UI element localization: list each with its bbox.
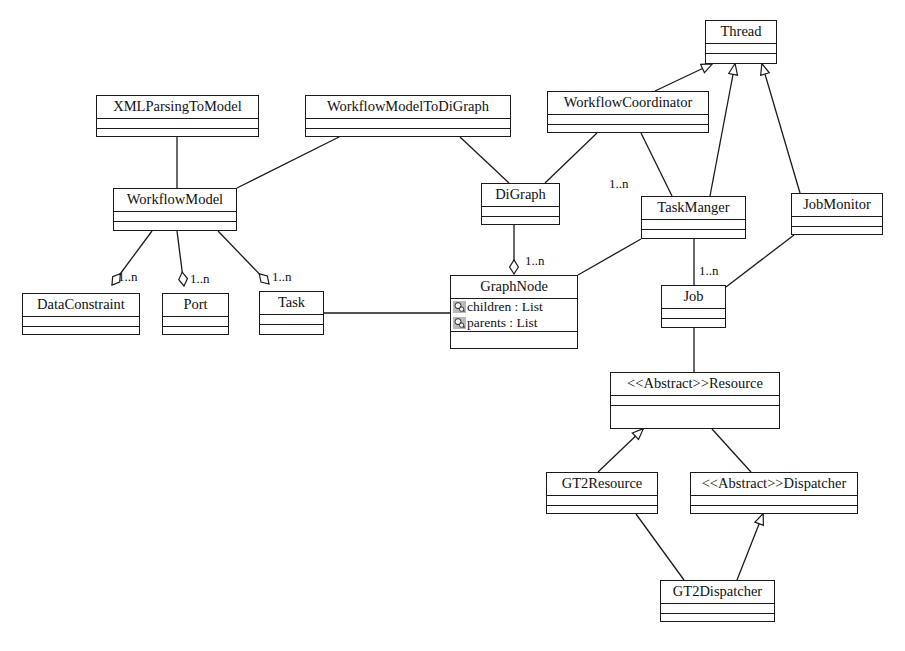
uml-operations-dataconstraint [23, 327, 139, 338]
uml-class-gt2resource[interactable]: GT2Resource [546, 472, 658, 514]
uml-class-name-gt2dispatcher: GT2Dispatcher [661, 581, 774, 604]
uml-attribute-text: children : List [467, 300, 543, 314]
uml-attributes-thread [706, 44, 776, 54]
connector-coordinator-thread [655, 64, 712, 91]
mult-taskmanger-job: 1..n [699, 264, 719, 277]
uml-attributes-resource [611, 396, 779, 406]
uml-attribute-row: children : List [451, 299, 577, 315]
uml-attributes-job [662, 309, 725, 319]
uml-class-taskmanger[interactable]: TaskManger [641, 196, 746, 239]
uml-class-dataconstraint[interactable]: DataConstraint [22, 293, 140, 335]
uml-attributes-xmlparsingtomodel [97, 119, 258, 129]
uml-class-workflowmodel[interactable]: WorkflowModel [113, 188, 237, 231]
mult-workflowmodel-task: 1..n [272, 270, 292, 283]
uml-attributes-dataconstraint [23, 317, 139, 327]
uml-operations-workflowcoordinator [548, 125, 708, 136]
uml-attribute-row: parents : List [451, 315, 577, 331]
uml-class-name-xmlparsingtomodel: XMLParsingToModel [97, 96, 258, 119]
uml-class-name-taskmanger: TaskManger [642, 197, 745, 220]
uml-attribute-text: parents : List [467, 316, 538, 330]
uml-class-dispatcher[interactable]: <<Abstract>>Dispatcher [690, 472, 858, 514]
uml-class-gt2dispatcher[interactable]: GT2Dispatcher [660, 580, 775, 622]
mult-workflowmodel-dataconstraint: 1..n [118, 270, 138, 283]
uml-operations-xmlparsingtomodel [97, 129, 258, 140]
uml-class-name-workflowmodeltodigraph: WorkflowModelToDiGraph [306, 96, 510, 119]
uml-class-name-workflowmodel: WorkflowModel [114, 189, 236, 212]
uml-class-thread[interactable]: Thread [705, 20, 777, 64]
uml-operations-graphnode [451, 332, 577, 343]
uml-operations-gt2dispatcher [661, 614, 774, 625]
uml-attributes-workflowcoordinator [548, 115, 708, 125]
uml-operations-workflowmodel [114, 222, 236, 233]
connector-workflowmodel-port [177, 231, 184, 286]
uml-class-name-port: Port [163, 294, 228, 317]
uml-class-diagram: ThreadXMLParsingToModelWorkflowModelToDi… [0, 0, 905, 651]
uml-attributes-graphnode: children : Listparents : List [451, 299, 577, 332]
connector-graphnode-taskmanger [578, 239, 641, 275]
uml-class-graphnode[interactable]: GraphNodechildren : Listparents : List [450, 275, 578, 349]
uml-attributes-dispatcher [691, 496, 857, 506]
uml-class-name-jobmonitor: JobMonitor [792, 194, 882, 217]
uml-attributes-jobmonitor [792, 217, 882, 227]
uml-attributes-task [260, 315, 323, 325]
uml-attributes-digraph [482, 207, 559, 217]
uml-class-name-gt2resource: GT2Resource [547, 473, 657, 496]
connector-gt2resource-resource [598, 429, 643, 472]
mult-workflowmodel-port: 1..n [190, 272, 210, 285]
connector-dispatcher-resource [712, 429, 751, 472]
uml-operations-port [163, 327, 228, 338]
mult-digraph-graphnode: 1..n [525, 254, 545, 267]
private-attribute-icon [453, 317, 466, 329]
uml-class-resource[interactable]: <<Abstract>>Resource [610, 372, 780, 429]
uml-class-name-dataconstraint: DataConstraint [23, 294, 139, 317]
uml-operations-task [260, 325, 323, 336]
connector-jobmonitor-job [726, 235, 794, 287]
uml-attributes-gt2dispatcher [661, 604, 774, 614]
uml-class-job[interactable]: Job [661, 285, 726, 328]
uml-class-workflowmodeltodigraph[interactable]: WorkflowModelToDiGraph [305, 95, 511, 137]
uml-class-digraph[interactable]: DiGraph [481, 183, 560, 225]
uml-attributes-port [163, 317, 228, 327]
connector-workflowmodeltodigraph-digraph [460, 137, 509, 183]
uml-class-name-resource: <<Abstract>>Resource [611, 373, 779, 396]
mult-coordinator-taskmanger: 1..n [609, 177, 629, 190]
uml-operations-workflowmodeltodigraph [306, 129, 510, 140]
private-attribute-icon [453, 301, 466, 313]
uml-class-name-task: Task [260, 292, 323, 315]
uml-attributes-workflowmodeltodigraph [306, 119, 510, 129]
uml-operations-resource [611, 406, 779, 417]
uml-class-name-dispatcher: <<Abstract>>Dispatcher [691, 473, 857, 496]
uml-class-name-thread: Thread [706, 21, 776, 44]
uml-operations-gt2resource [547, 506, 657, 517]
uml-operations-jobmonitor [792, 227, 882, 238]
uml-class-xmlparsingtomodel[interactable]: XMLParsingToModel [96, 95, 259, 137]
uml-attributes-taskmanger [642, 220, 745, 230]
connector-taskmanger-thread [710, 64, 735, 196]
connector-gt2dispatcher-dispatcher [737, 514, 763, 580]
uml-attributes-workflowmodel [114, 212, 236, 222]
uml-operations-taskmanger [642, 230, 745, 241]
connector-gt2dispatcher-gt2resource [636, 514, 684, 580]
connector-coordinator-digraph [545, 133, 597, 183]
uml-class-name-job: Job [662, 286, 725, 309]
connector-workflowmodel-task [218, 231, 269, 284]
uml-class-name-graphnode: GraphNode [451, 276, 577, 299]
uml-operations-dispatcher [691, 506, 857, 517]
uml-class-workflowcoordinator[interactable]: WorkflowCoordinator [547, 91, 709, 133]
uml-class-task[interactable]: Task [259, 291, 324, 335]
uml-operations-digraph [482, 217, 559, 228]
connector-coordinator-taskmanger [641, 133, 672, 196]
uml-operations-thread [706, 54, 776, 65]
uml-class-jobmonitor[interactable]: JobMonitor [791, 193, 883, 235]
uml-class-name-digraph: DiGraph [482, 184, 559, 207]
uml-operations-job [662, 319, 725, 330]
uml-class-port[interactable]: Port [162, 293, 229, 335]
uml-class-name-workflowcoordinator: WorkflowCoordinator [548, 92, 708, 115]
uml-attributes-gt2resource [547, 496, 657, 506]
connector-workflowmodeltodigraph-workflowmodel [237, 137, 339, 188]
connector-jobmonitor-thread [762, 64, 800, 193]
